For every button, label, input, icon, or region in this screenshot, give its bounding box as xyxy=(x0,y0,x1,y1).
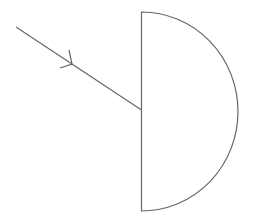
semicircle-lens-ray-diagram xyxy=(0,0,255,219)
semicircular-lens xyxy=(142,12,239,211)
arrow-icon xyxy=(60,50,72,68)
incident-ray xyxy=(16,27,142,110)
